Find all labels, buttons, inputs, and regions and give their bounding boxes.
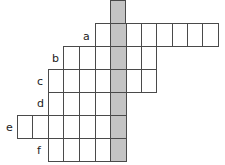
grid-cell-b-4[interactable] [110, 46, 127, 70]
grid-cell-c-2[interactable] [63, 69, 80, 93]
grid-cell-f-1[interactable] [48, 138, 64, 162]
grid-cell-a-5[interactable] [156, 23, 173, 47]
grid-cell-e-6[interactable] [95, 115, 111, 139]
grid-cell-d-5[interactable] [110, 92, 127, 116]
grid-cell-d-3[interactable] [79, 92, 96, 116]
grid-cell-f-5[interactable] [110, 138, 127, 162]
crossword-grid: abcdef [0, 0, 225, 165]
grid-cell-e-3[interactable] [48, 115, 64, 139]
grid-cell-e-1[interactable] [17, 115, 33, 139]
grid-cell-c-1[interactable] [48, 69, 64, 93]
grid-cell-c-3[interactable] [79, 69, 96, 93]
grid-cell-f-2[interactable] [63, 138, 80, 162]
grid-cell-d-4[interactable] [95, 92, 111, 116]
grid-cell-e-7[interactable] [110, 115, 127, 139]
row-label-b: b [52, 53, 59, 64]
row-label-f: f [37, 145, 41, 156]
grid-cell-f-4[interactable] [95, 138, 111, 162]
grid-cell-a-4[interactable] [141, 23, 157, 47]
grid-cell-e-2[interactable] [32, 115, 49, 139]
grid-cell-c-6[interactable] [126, 69, 142, 93]
grid-cell-e-4[interactable] [63, 115, 80, 139]
grid-cell-a-6[interactable] [172, 23, 188, 47]
grid-cell-f-3[interactable] [79, 138, 96, 162]
grid-cell-d-1[interactable] [48, 92, 64, 116]
grid-cell-c-4[interactable] [95, 69, 111, 93]
grid-cell-a-2[interactable] [110, 23, 127, 47]
grid-cell-b-1[interactable] [63, 46, 80, 70]
row-label-d: d [37, 98, 44, 109]
grid-cell-b-3[interactable] [95, 46, 111, 70]
row-label-a: a [83, 31, 90, 42]
grid-cell-a-8[interactable] [202, 23, 219, 47]
row-label-e: e [6, 122, 13, 133]
grid-cell-a-1[interactable] [95, 23, 111, 47]
grid-cell-d-2[interactable] [63, 92, 80, 116]
grid-cell-b-5[interactable] [126, 46, 142, 70]
grid-cell-c-5[interactable] [110, 69, 127, 93]
grid-cell-a-7[interactable] [187, 23, 203, 47]
grid-cell-a-3[interactable] [126, 23, 142, 47]
grid-cell-e-5[interactable] [79, 115, 96, 139]
grid-cell-b-2[interactable] [79, 46, 96, 70]
grid-cell-b-6[interactable] [141, 46, 157, 70]
grid-cell-c-7[interactable] [141, 69, 157, 93]
row-label-c: c [37, 76, 43, 87]
